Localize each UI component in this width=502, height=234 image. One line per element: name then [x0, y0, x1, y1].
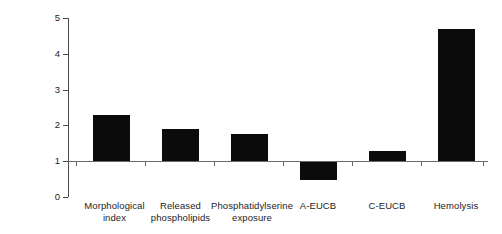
category-label-line-1: Hemolysis	[420, 200, 492, 212]
y-tick-label-5: 5	[44, 11, 60, 24]
y-axis-title: Neonates vs. Adults (Fold change)	[6, 0, 32, 44]
bar-hemolysis	[438, 29, 475, 162]
y-axis-line	[68, 18, 69, 197]
category-label-line-1: A-EUCB	[282, 200, 354, 212]
category-labels: Morphological index Released phospholipi…	[68, 200, 488, 234]
plot-area: 5 4 3 2 1 0	[68, 18, 488, 197]
x-tick-5	[421, 162, 422, 166]
bar-phosphatidylserine-exposure	[231, 134, 268, 161]
x-tick-4	[352, 162, 353, 166]
x-tick-2	[214, 162, 215, 166]
x-tick-1	[145, 162, 146, 166]
bar-a-eucb	[300, 162, 337, 180]
category-label-a-eucb: A-EUCB	[282, 200, 354, 212]
category-label-c-eucb: C-EUCB	[351, 200, 423, 212]
bar-c-eucb	[369, 151, 406, 162]
y-tick-2: 2	[63, 125, 68, 126]
y-tick-label-4: 4	[44, 47, 60, 60]
bar-chart-figure: Neonates vs. Adults (Fold change) 5 4 3 …	[0, 0, 502, 234]
y-tick-3: 3	[63, 90, 68, 91]
y-tick-label-2: 2	[44, 118, 60, 131]
y-tick-0: 0	[63, 197, 68, 198]
bar-morphological-index	[93, 115, 130, 162]
y-tick-label-1: 1	[44, 154, 60, 167]
y-tick-label-0: 0	[44, 190, 60, 203]
y-tick-label-3: 3	[44, 83, 60, 96]
bar-released-phospholipids	[162, 129, 199, 161]
category-label-line-1: C-EUCB	[351, 200, 423, 212]
category-label-hemolysis: Hemolysis	[420, 200, 492, 212]
baseline-axis-line	[68, 161, 488, 162]
x-tick-6	[483, 162, 484, 166]
category-label-line-2: exposure	[196, 212, 308, 224]
x-tick-3	[283, 162, 284, 166]
x-tick-0	[76, 162, 77, 166]
y-tick-5: 5	[63, 18, 68, 19]
y-tick-4: 4	[63, 54, 68, 55]
